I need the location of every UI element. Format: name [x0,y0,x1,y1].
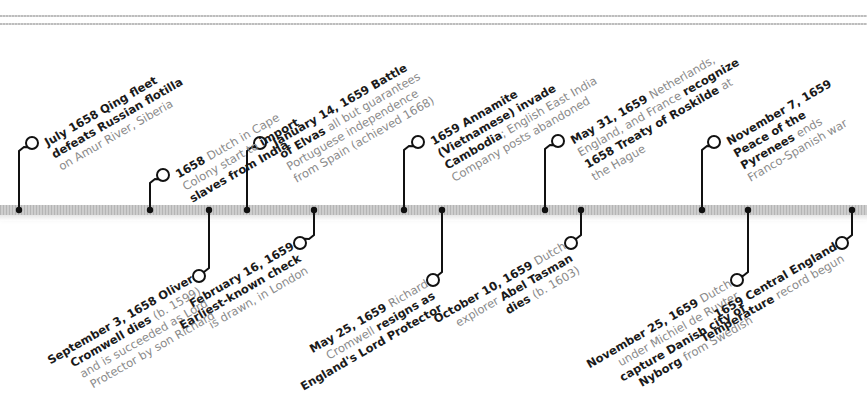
bar-dot [849,207,855,213]
callout-ring-icon [412,136,424,148]
callout-ring-icon [193,270,205,282]
bar-dot [206,207,212,213]
callout-ring-icon [565,237,577,249]
bar-dot [401,207,407,213]
event-marker [294,207,317,249]
bar-dot [542,207,548,213]
bar-dot [244,207,250,213]
callout-ring-icon [552,135,564,147]
bar-dot [16,207,22,213]
event-marker [147,169,169,213]
event-marker [565,207,584,249]
bar-dot [311,207,317,213]
event-marker [731,207,751,286]
event-marker [16,137,38,213]
event-marker [699,136,720,213]
event-marker [836,207,855,249]
event-marker [542,135,564,213]
callout-ring-icon [294,237,306,249]
callout-ring-icon [157,169,169,181]
bar-dot [147,207,153,213]
callout-ring-icon [836,237,848,249]
callout-ring-icon [26,137,38,149]
event-marker [193,207,212,282]
event-marker [401,136,424,213]
event-marker [427,207,445,286]
bar-dot [439,207,445,213]
bar-dot [699,207,705,213]
callout-ring-icon [427,274,439,286]
callout-ring-icon [731,274,743,286]
callout-ring-icon [708,136,720,148]
bar-dot [578,207,584,213]
bar-dot [745,207,751,213]
